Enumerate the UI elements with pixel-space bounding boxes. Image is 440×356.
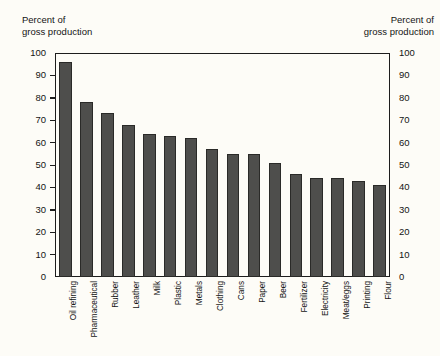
y-tick-label-right-50: 50 — [399, 160, 429, 170]
y-tick-label-left-70: 70 — [16, 115, 46, 125]
category-label-metals: Metals — [195, 281, 204, 305]
y-tick-label-right-10: 10 — [399, 250, 429, 260]
category-label-plastic: Plastic — [174, 281, 183, 305]
y-tick-label-left-40: 40 — [16, 182, 46, 192]
category-label-oil-refining: Oil refining — [69, 281, 78, 320]
category-label-milk: Milk — [153, 281, 162, 296]
category-label-flour: Flour — [384, 281, 393, 300]
y-tick-label-left-60: 60 — [16, 138, 46, 148]
bar-fertilizer — [290, 174, 303, 277]
category-label-rubber: Rubber — [111, 281, 120, 308]
bar-plastic — [164, 136, 177, 277]
bar-paper — [248, 154, 261, 277]
y-tick-label-right-30: 30 — [399, 205, 429, 215]
y-tick-label-right-40: 40 — [399, 182, 429, 192]
bar-beer — [269, 163, 282, 277]
y-tick-label-right-100: 100 — [399, 48, 429, 58]
category-label-fertilizer: Fertilizer — [300, 281, 309, 312]
bar-flour — [373, 185, 386, 277]
y-tick-label-right-60: 60 — [399, 138, 429, 148]
y-tick-label-left-90: 90 — [16, 70, 46, 80]
left-axis-caption: Percent of gross production — [22, 14, 92, 38]
y-tick-label-right-20: 20 — [399, 227, 429, 237]
y-tick-label-left-0: 0 — [16, 272, 46, 282]
bar-clothing — [206, 149, 219, 277]
bar-electricity — [310, 178, 323, 277]
category-label-pharmaceutical: Pharmaceutical — [90, 281, 99, 337]
y-tick-label-right-70: 70 — [399, 115, 429, 125]
bar-meat-eggs — [331, 178, 344, 277]
y-tick-label-left-50: 50 — [16, 160, 46, 170]
bar-metals — [185, 138, 198, 277]
category-label-leather: Leather — [132, 281, 141, 309]
bar-leather — [122, 125, 135, 277]
category-label-electricity: Electricity — [321, 281, 330, 316]
category-label-paper: Paper — [258, 281, 267, 303]
category-labels-layer: Oil refiningPharmaceuticalRubberLeatherM… — [55, 279, 390, 355]
category-label-printing: Printing — [363, 281, 372, 309]
bar-pharmaceutical — [80, 102, 93, 277]
y-tick-label-left-10: 10 — [16, 250, 46, 260]
y-tick-label-right-90: 90 — [399, 70, 429, 80]
category-label-meat-eggs: Meat/eggs — [342, 281, 351, 319]
category-label-clothing: Clothing — [216, 281, 225, 311]
y-tick-label-left-80: 80 — [16, 93, 46, 103]
y-tick-label-right-0: 0 — [399, 272, 429, 282]
y-tick-label-left-30: 30 — [16, 205, 46, 215]
bar-printing — [352, 181, 365, 277]
bar-cans — [227, 154, 240, 277]
bars-layer — [55, 53, 390, 277]
category-label-beer: Beer — [279, 281, 288, 298]
bar-rubber — [101, 113, 114, 277]
bar-chart-figure: Percent of gross production Percent of g… — [0, 0, 440, 356]
y-tick-label-left-20: 20 — [16, 227, 46, 237]
bar-milk — [143, 134, 156, 277]
category-label-cans: Cans — [237, 281, 246, 300]
y-tick-label-right-80: 80 — [399, 93, 429, 103]
right-axis-caption: Percent of gross production — [364, 14, 434, 38]
bar-oil-refining — [59, 62, 72, 277]
y-tick-label-left-100: 100 — [16, 48, 46, 58]
